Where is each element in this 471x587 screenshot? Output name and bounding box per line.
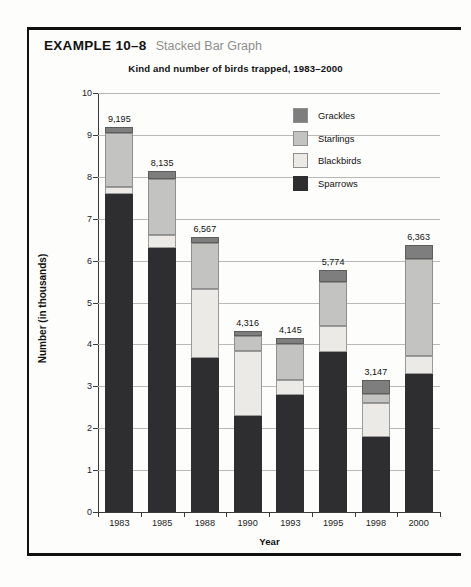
bar-value-label: 4,145 — [279, 325, 302, 335]
x-tick-label-2000: 2000 — [408, 518, 428, 528]
y-tick-label: 4 — [87, 339, 92, 349]
bar-value-label: 5,774 — [322, 257, 345, 267]
y-tick-label: 7 — [87, 214, 92, 224]
legend-item-grackles: Grackles — [293, 106, 361, 125]
bar-value-label: 4,316 — [236, 318, 259, 328]
bar-segment-blackbirds — [319, 326, 347, 351]
x-tick-mark — [440, 512, 441, 517]
bar-segment-starlings — [105, 133, 133, 187]
example-header: EXAMPLE 10–8Stacked Bar Graph — [44, 36, 262, 54]
bar-segment-sparrows — [362, 437, 390, 512]
bar-segment-sparrows — [319, 352, 347, 512]
legend-item-sparrows: Sparrows — [293, 174, 361, 193]
bar-segment-blackbirds — [148, 235, 176, 248]
bar-segment-blackbirds — [276, 380, 304, 395]
y-tick-label: 10 — [82, 88, 92, 98]
bar-segment-sparrows — [191, 358, 219, 512]
legend-label: Sparrows — [318, 178, 358, 189]
bar-segment-blackbirds — [234, 351, 262, 416]
left-rule — [27, 27, 29, 556]
example-number: EXAMPLE 10–8 — [44, 38, 147, 53]
bar-value-label: 6,363 — [407, 232, 430, 242]
plot-area: Number (in thousands) 109876543210 9,195… — [98, 93, 440, 512]
bar-segment-grackles — [191, 237, 219, 243]
bar-segment-sparrows — [405, 374, 433, 512]
top-rule — [27, 27, 461, 30]
x-axis-label: Year — [98, 536, 441, 547]
x-tick-label-1983: 1983 — [109, 518, 129, 528]
bar-segment-starlings — [234, 336, 262, 351]
x-tick-mark — [312, 512, 313, 517]
y-tick-label: 1 — [87, 465, 92, 475]
x-tick-label-1985: 1985 — [152, 518, 172, 528]
x-tick-mark — [226, 512, 227, 517]
y-tick-label: 9 — [87, 130, 92, 140]
bar-segment-grackles — [319, 270, 347, 282]
bottom-rule — [27, 553, 461, 556]
y-axis-label: Number (in thousands) — [37, 228, 48, 388]
bar-1995: 5,774 — [319, 270, 347, 512]
legend-swatch-starlings — [293, 131, 308, 146]
bar-1988: 6,567 — [191, 237, 219, 512]
bar-segment-starlings — [405, 259, 433, 356]
bar-value-label: 3,147 — [365, 367, 388, 377]
bar-segment-blackbirds — [362, 403, 390, 437]
bar-segment-sparrows — [148, 248, 176, 512]
bar-segment-starlings — [191, 243, 219, 289]
legend-swatch-blackbirds — [293, 153, 308, 168]
bar-1985: 8,135 — [148, 171, 176, 512]
bar-segment-blackbirds — [105, 187, 133, 193]
bar-segment-starlings — [148, 179, 176, 236]
x-tick-label-1988: 1988 — [195, 518, 215, 528]
x-tick-label-1990: 1990 — [237, 518, 257, 528]
chart-legend: GracklesStarlingsBlackbirdsSparrows — [293, 106, 361, 196]
bar-value-label: 8,135 — [151, 158, 174, 168]
example-subtitle: Stacked Bar Graph — [156, 39, 262, 53]
bar-segment-blackbirds — [191, 289, 219, 359]
bar-segment-grackles — [276, 338, 304, 343]
bar-segment-sparrows — [234, 416, 262, 512]
example-figure-page: EXAMPLE 10–8Stacked Bar Graph Kind and n… — [0, 0, 471, 587]
bar-segment-grackles — [405, 245, 433, 258]
x-tick-label-1993: 1993 — [280, 518, 300, 528]
bar-value-label: 9,195 — [108, 114, 131, 124]
y-tick-label: 5 — [87, 298, 92, 308]
legend-label: Blackbirds — [318, 155, 361, 166]
x-tick-mark — [269, 512, 270, 517]
chart-title: Kind and number of birds trapped, 1983–2… — [0, 63, 471, 74]
legend-swatch-grackles — [293, 108, 308, 123]
x-tick-mark — [98, 512, 99, 517]
bar-series-layer: 9,1958,1356,5674,3164,1455,7743,1476,363 — [98, 93, 440, 512]
bar-1998: 3,147 — [362, 380, 390, 512]
legend-label: Starlings — [318, 133, 354, 144]
bar-1990: 4,316 — [234, 331, 262, 512]
x-tick-mark — [355, 512, 356, 517]
y-tick-label: 2 — [87, 423, 92, 433]
legend-item-blackbirds: Blackbirds — [293, 151, 361, 170]
bar-1993: 4,145 — [276, 338, 304, 512]
bar-segment-starlings — [319, 282, 347, 326]
x-tick-label-1998: 1998 — [366, 518, 386, 528]
y-tick-label: 8 — [87, 172, 92, 182]
x-tick-mark — [184, 512, 185, 517]
bar-value-label: 6,567 — [194, 224, 217, 234]
y-tick-label: 0 — [87, 507, 92, 517]
x-tick-mark — [141, 512, 142, 517]
legend-item-starlings: Starlings — [293, 129, 361, 148]
bar-2000: 6,363 — [405, 245, 433, 512]
bar-1983: 9,195 — [105, 127, 133, 512]
bar-segment-sparrows — [276, 395, 304, 512]
bar-segment-grackles — [148, 171, 176, 179]
y-tick-label: 3 — [87, 381, 92, 391]
x-tick-label-1995: 1995 — [323, 518, 343, 528]
bar-segment-blackbirds — [405, 356, 433, 374]
bar-segment-grackles — [105, 127, 133, 133]
legend-label: Grackles — [318, 110, 355, 121]
bar-segment-starlings — [362, 394, 390, 403]
bar-segment-starlings — [276, 344, 304, 380]
y-tick-label: 6 — [87, 256, 92, 266]
bar-segment-grackles — [234, 331, 262, 336]
x-tick-mark — [397, 512, 398, 517]
bar-segment-sparrows — [105, 194, 133, 512]
bar-segment-grackles — [362, 380, 390, 394]
